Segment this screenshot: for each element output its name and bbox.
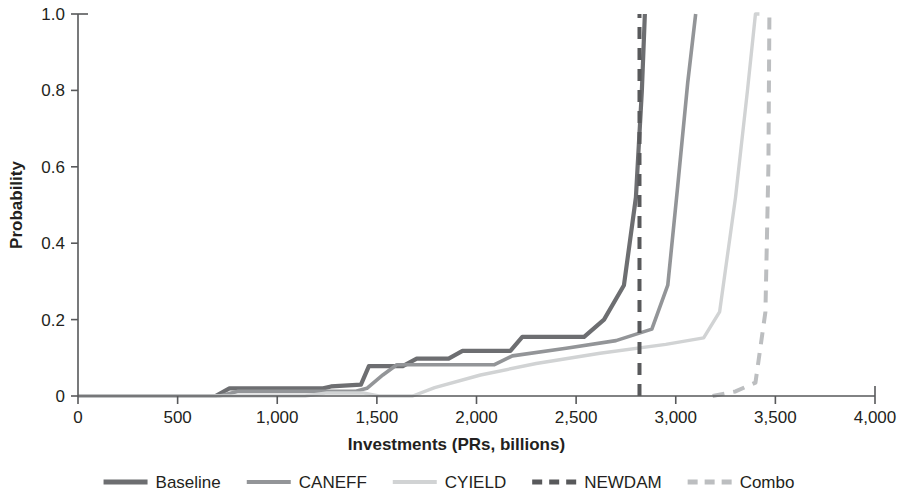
- y-tick-label: 0.2: [41, 311, 65, 330]
- legend-label-cyield: CYIELD: [445, 473, 506, 492]
- legend-label-combo: Combo: [740, 473, 795, 492]
- legend-label-newdam: NEWDAM: [584, 473, 661, 492]
- y-tick-label: 1.0: [41, 5, 65, 24]
- axes-layer: [71, 14, 875, 404]
- x-axis-title: Investments (PRs, billions): [348, 435, 565, 454]
- series-line-caneff: [78, 14, 696, 396]
- chart-legend: BaselineCANEFFCYIELDNEWDAMCombo: [104, 473, 795, 492]
- axis-labels-layer: 00.20.40.60.81.005001,0001,5002,0002,500…: [7, 5, 896, 454]
- x-tick-label: 4,000: [854, 408, 897, 427]
- cdf-line-chart: 00.20.40.60.81.005001,0001,5002,0002,500…: [0, 0, 898, 498]
- series-layer: [78, 14, 769, 396]
- axis-frame: [78, 14, 875, 396]
- y-tick-label: 0: [56, 387, 65, 406]
- series-line-cyield: [78, 14, 759, 396]
- x-tick-label: 3,000: [654, 408, 697, 427]
- y-axis-title: Probability: [7, 161, 26, 249]
- legend-label-baseline: Baseline: [156, 473, 221, 492]
- legend-label-caneff: CANEFF: [299, 473, 367, 492]
- x-tick-label: 3,500: [754, 408, 797, 427]
- series-line-combo: [713, 14, 770, 396]
- x-tick-label: 1,500: [356, 408, 399, 427]
- x-tick-label: 2,000: [455, 408, 498, 427]
- x-tick-label: 1,000: [256, 408, 299, 427]
- x-tick-label: 0: [73, 408, 82, 427]
- chart-figure: 00.20.40.60.81.005001,0001,5002,0002,500…: [0, 0, 898, 498]
- y-tick-label: 0.6: [41, 158, 65, 177]
- y-tick-label: 0.8: [41, 81, 65, 100]
- series-line-baseline: [78, 14, 645, 396]
- y-tick-label: 0.4: [41, 234, 65, 253]
- x-tick-label: 500: [163, 408, 191, 427]
- x-tick-label: 2,500: [555, 408, 598, 427]
